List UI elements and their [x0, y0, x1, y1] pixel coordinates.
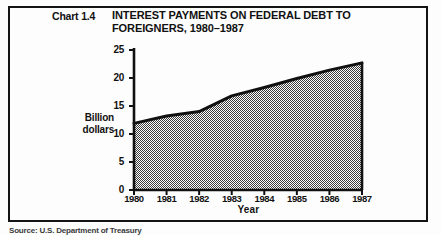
chart-number-label: Chart 1.4 — [52, 10, 95, 22]
x-axis-title: Year — [0, 204, 441, 215]
y-tick-label-25: 25 — [102, 44, 124, 55]
x-tick-label-1981: 1981 — [150, 193, 184, 204]
chart-title-line-1: INTEREST PAYMENTS ON FEDERAL DEBT TO — [112, 9, 351, 21]
x-tick-label-1984: 1984 — [247, 193, 281, 204]
source-note-text: Source: U.S. Department of Treasury — [9, 226, 142, 235]
chart-title-line-2: FOREIGNERS, 1980–1987 — [112, 22, 404, 35]
y-axis-title-line-1: Billion — [52, 112, 114, 124]
y-axis-title: Billion dollars — [52, 112, 114, 135]
x-tick-label-1987: 1987 — [345, 193, 379, 204]
x-tick-label-1985: 1985 — [280, 193, 314, 204]
y-tick-label-15: 15 — [102, 100, 124, 111]
chart-title: INTEREST PAYMENTS ON FEDERAL DEBT TO FOR… — [112, 9, 404, 34]
x-tick-label-1980: 1980 — [117, 193, 151, 204]
y-axis-title-line-2: dollars — [52, 124, 114, 136]
source-note: Source: U.S. Department of Treasury — [9, 226, 309, 235]
y-tick-label-5: 5 — [102, 156, 124, 167]
x-tick-label-1982: 1982 — [182, 193, 216, 204]
x-tick-label-1986: 1986 — [312, 193, 346, 204]
y-tick-label-20: 20 — [102, 72, 124, 83]
x-axis-title-label: Year — [182, 204, 260, 215]
x-tick-label-1983: 1983 — [215, 193, 249, 204]
chart-screenshot: Chart 1.4 INTEREST PAYMENTS ON FEDERAL D… — [0, 0, 441, 235]
